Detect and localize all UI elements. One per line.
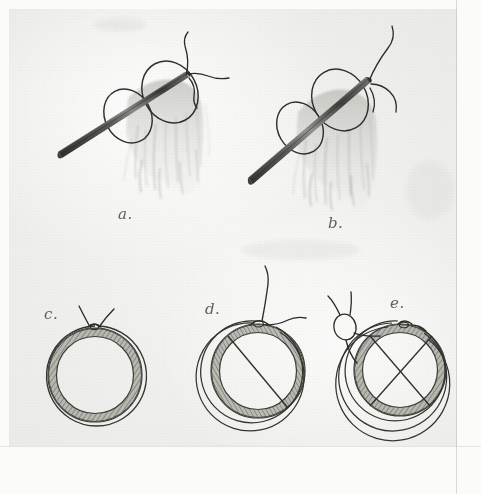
transfixion-suture-d: [228, 336, 288, 408]
panel-label-d: d.: [205, 300, 220, 318]
surgical-knot-c: [79, 306, 114, 330]
illustration-canvas: [0, 0, 481, 494]
vessel-wall-c: [48, 328, 142, 422]
panel-a-artwork: [58, 32, 230, 198]
transfixion-sutures-e: [370, 336, 432, 406]
panel-b-artwork: [248, 26, 397, 210]
panel-label-a: a.: [118, 205, 133, 223]
panel-label-b: b.: [328, 214, 343, 232]
panel-d-artwork: [196, 266, 306, 431]
vessel-stump-a: [124, 79, 209, 198]
ligature-loop-c: [46, 326, 146, 426]
suture-thread-b: [369, 26, 396, 112]
panel-c-artwork: [46, 306, 146, 426]
figure-sheet: a. b. c. d. e. Suture ligature technique…: [0, 0, 481, 494]
panel-label-e: e.: [390, 294, 405, 312]
surgical-knot-d: [250, 266, 306, 327]
panel-e-artwork: [328, 292, 450, 441]
panel-label-c: c.: [44, 305, 58, 323]
